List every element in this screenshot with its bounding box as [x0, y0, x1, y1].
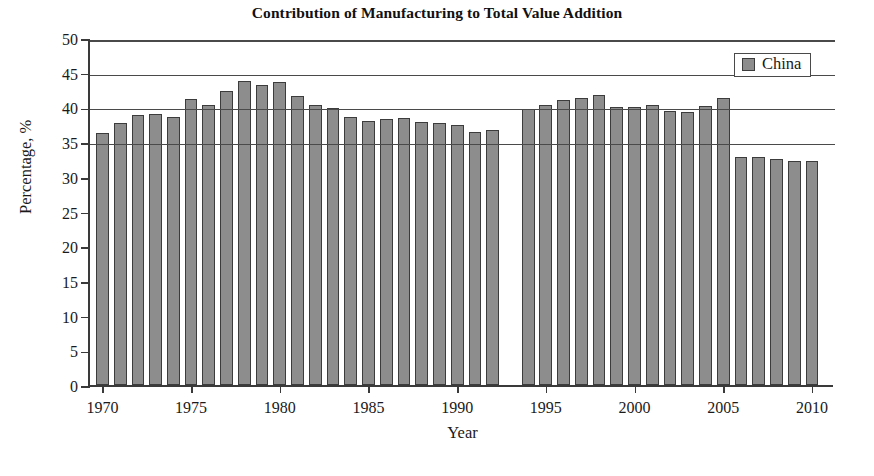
bar-2003 [681, 112, 694, 385]
y-tick-35 [81, 143, 90, 145]
x-tick-label-1990: 1990 [441, 399, 473, 417]
bar-1977 [220, 91, 233, 385]
y-tick-label-45: 45 [38, 65, 78, 83]
plot-area: 05101520253035404550 1970197519801985199… [88, 40, 833, 387]
y-tick-0 [81, 386, 90, 388]
bar-2010 [806, 161, 819, 385]
bar-1986 [380, 119, 393, 385]
bar-1992 [486, 130, 499, 385]
y-tick-20 [81, 247, 90, 249]
legend: China [734, 53, 811, 77]
x-tick-label-2000: 2000 [619, 399, 651, 417]
bar-1976 [202, 105, 215, 385]
x-tick-1970 [102, 385, 104, 393]
gridline-45 [90, 75, 835, 76]
bar-2002 [664, 111, 677, 385]
bar-1999 [610, 107, 623, 385]
y-tick-label-5: 5 [38, 343, 78, 361]
gridline-40 [90, 109, 835, 110]
y-tick-label-50: 50 [38, 31, 78, 49]
y-tick-label-15: 15 [38, 274, 78, 292]
legend-swatch-china [742, 58, 755, 71]
x-tick-1980 [280, 385, 282, 393]
bar-1994 [522, 109, 535, 385]
bar-1971 [114, 123, 127, 385]
y-tick-label-10: 10 [38, 308, 78, 326]
x-tick-2010 [812, 385, 814, 393]
bar-2000 [628, 107, 641, 385]
bar-1991 [469, 132, 482, 385]
bar-1972 [132, 115, 145, 385]
y-tick-label-25: 25 [38, 204, 78, 222]
bar-2009 [788, 161, 801, 385]
chart-container: Contribution of Manufacturing to Total V… [0, 0, 874, 476]
bar-2008 [770, 159, 783, 385]
x-tick-1995 [546, 385, 548, 393]
x-tick-2000 [635, 385, 637, 393]
bar-2004 [699, 106, 712, 385]
y-tick-30 [81, 178, 90, 180]
x-tick-1990 [457, 385, 459, 393]
gridline-50 [90, 40, 835, 41]
x-tick-label-1980: 1980 [264, 399, 296, 417]
bar-1983 [327, 108, 340, 385]
bar-1988 [415, 122, 428, 385]
bar-1980 [273, 82, 286, 385]
x-tick-label-2005: 2005 [707, 399, 739, 417]
bar-1989 [433, 123, 446, 385]
bar-1998 [593, 95, 606, 385]
y-tick-label-20: 20 [38, 239, 78, 257]
bar-1975 [185, 99, 198, 385]
bar-1984 [344, 117, 357, 385]
bar-1974 [167, 117, 180, 385]
bar-1979 [256, 85, 269, 386]
y-tick-25 [81, 213, 90, 215]
bar-1990 [451, 125, 464, 385]
y-tick-label-0: 0 [38, 378, 78, 396]
x-tick-2005 [723, 385, 725, 393]
y-tick-45 [81, 74, 90, 76]
legend-label-china: China [762, 56, 801, 73]
bar-1970 [96, 133, 109, 385]
x-axis-title: Year [90, 423, 835, 443]
bar-1973 [149, 114, 162, 385]
y-axis-title: Percentage, % [16, 120, 36, 214]
bar-1987 [398, 118, 411, 385]
bar-1995 [539, 105, 552, 385]
y-tick-15 [81, 282, 90, 284]
x-tick-label-1970: 1970 [86, 399, 118, 417]
y-tick-label-35: 35 [38, 135, 78, 153]
y-tick-5 [81, 352, 90, 354]
bar-1982 [309, 105, 322, 385]
y-tick-10 [81, 317, 90, 319]
y-tick-40 [81, 109, 90, 111]
y-tick-50 [81, 39, 90, 41]
bar-series-china [90, 40, 833, 385]
bar-1978 [238, 81, 251, 385]
y-tick-label-40: 40 [38, 100, 78, 118]
bar-2005 [717, 98, 730, 385]
bar-1985 [362, 121, 375, 385]
x-tick-label-1995: 1995 [530, 399, 562, 417]
x-tick-label-2010: 2010 [796, 399, 828, 417]
x-tick-label-1975: 1975 [175, 399, 207, 417]
bar-1997 [575, 98, 588, 385]
x-tick-label-1985: 1985 [352, 399, 384, 417]
bar-2006 [735, 157, 748, 385]
chart-title: Contribution of Manufacturing to Total V… [0, 4, 874, 22]
gridline-35 [90, 144, 835, 145]
x-tick-1985 [368, 385, 370, 393]
x-tick-1975 [191, 385, 193, 393]
y-tick-label-30: 30 [38, 169, 78, 187]
bar-2007 [752, 157, 765, 385]
bar-2001 [646, 105, 659, 385]
bar-1981 [291, 96, 304, 385]
